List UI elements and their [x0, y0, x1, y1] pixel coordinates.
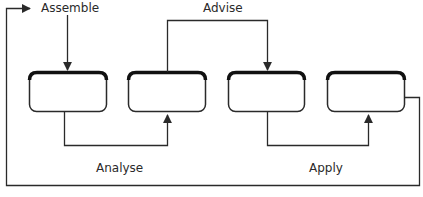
stage-box-1 [30, 73, 107, 112]
stage-box-2 [129, 73, 206, 112]
analyse-label: Analyse [96, 162, 143, 174]
process-cycle-diagram [0, 0, 423, 197]
advise-connector [168, 21, 268, 73]
stage-box-4 [328, 73, 405, 112]
stage-box-3 [229, 73, 305, 112]
advise-label: Advise [203, 2, 243, 14]
apply-connector [268, 112, 369, 146]
analyse-connector [65, 112, 168, 146]
apply-label: Apply [309, 162, 343, 174]
assemble-label: Assemble [41, 2, 99, 14]
